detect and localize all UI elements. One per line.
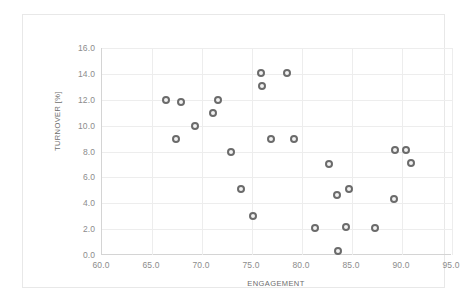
data-point: [342, 223, 350, 231]
data-point: [283, 69, 291, 77]
x-gridline: [302, 48, 303, 255]
y-tick-label: 6.0: [61, 172, 95, 182]
x-tick-label: 95.0: [431, 260, 466, 270]
x-tick-label: 75.0: [231, 260, 271, 270]
x-gridline: [152, 48, 153, 255]
y-gridline: [102, 177, 452, 178]
data-point: [391, 146, 399, 154]
plot-area: [101, 48, 451, 255]
y-tick-label: 14.0: [61, 69, 95, 79]
data-point: [258, 82, 266, 90]
data-point: [191, 122, 199, 130]
data-point: [177, 98, 185, 106]
x-tick-label: 90.0: [381, 260, 421, 270]
y-gridline: [102, 48, 452, 49]
data-point: [209, 109, 217, 117]
data-point: [227, 148, 235, 156]
y-tick-label: 4.0: [61, 198, 95, 208]
x-gridline: [252, 48, 253, 255]
x-tick-label: 85.0: [331, 260, 371, 270]
y-gridline: [102, 74, 452, 75]
data-point: [249, 212, 257, 220]
y-tick-label: 8.0: [61, 147, 95, 157]
x-gridline: [202, 48, 203, 255]
y-tick-label: 2.0: [61, 224, 95, 234]
data-point: [257, 69, 265, 77]
chart-frame: TURNOVER [%] ENGAGEMENT 0.02.04.06.08.01…: [22, 14, 445, 288]
data-point: [334, 247, 342, 255]
data-point: [402, 146, 410, 154]
y-tick-label: 0.0: [61, 250, 95, 260]
y-gridline: [102, 126, 452, 127]
y-gridline: [102, 229, 452, 230]
data-point: [390, 195, 398, 203]
x-tick-label: 60.0: [81, 260, 121, 270]
data-point: [407, 159, 415, 167]
y-gridline: [102, 203, 452, 204]
data-point: [345, 185, 353, 193]
y-gridline: [102, 100, 452, 101]
x-gridline: [452, 48, 453, 255]
x-gridline: [352, 48, 353, 255]
data-point: [311, 224, 319, 232]
y-tick-label: 12.0: [61, 95, 95, 105]
data-point: [267, 135, 275, 143]
y-tick-label: 16.0: [61, 43, 95, 53]
y-tick-label: 10.0: [61, 121, 95, 131]
data-point: [214, 96, 222, 104]
data-point: [237, 185, 245, 193]
data-point: [162, 96, 170, 104]
x-tick-label: 80.0: [281, 260, 321, 270]
data-point: [333, 191, 341, 199]
y-gridline: [102, 152, 452, 153]
data-point: [371, 224, 379, 232]
scatter-chart: TURNOVER [%] ENGAGEMENT 0.02.04.06.08.01…: [0, 0, 466, 302]
x-tick-label: 65.0: [131, 260, 171, 270]
x-axis-title: ENGAGEMENT: [101, 279, 451, 288]
x-tick-label: 70.0: [181, 260, 221, 270]
data-point: [172, 135, 180, 143]
data-point: [290, 135, 298, 143]
data-point: [325, 160, 333, 168]
